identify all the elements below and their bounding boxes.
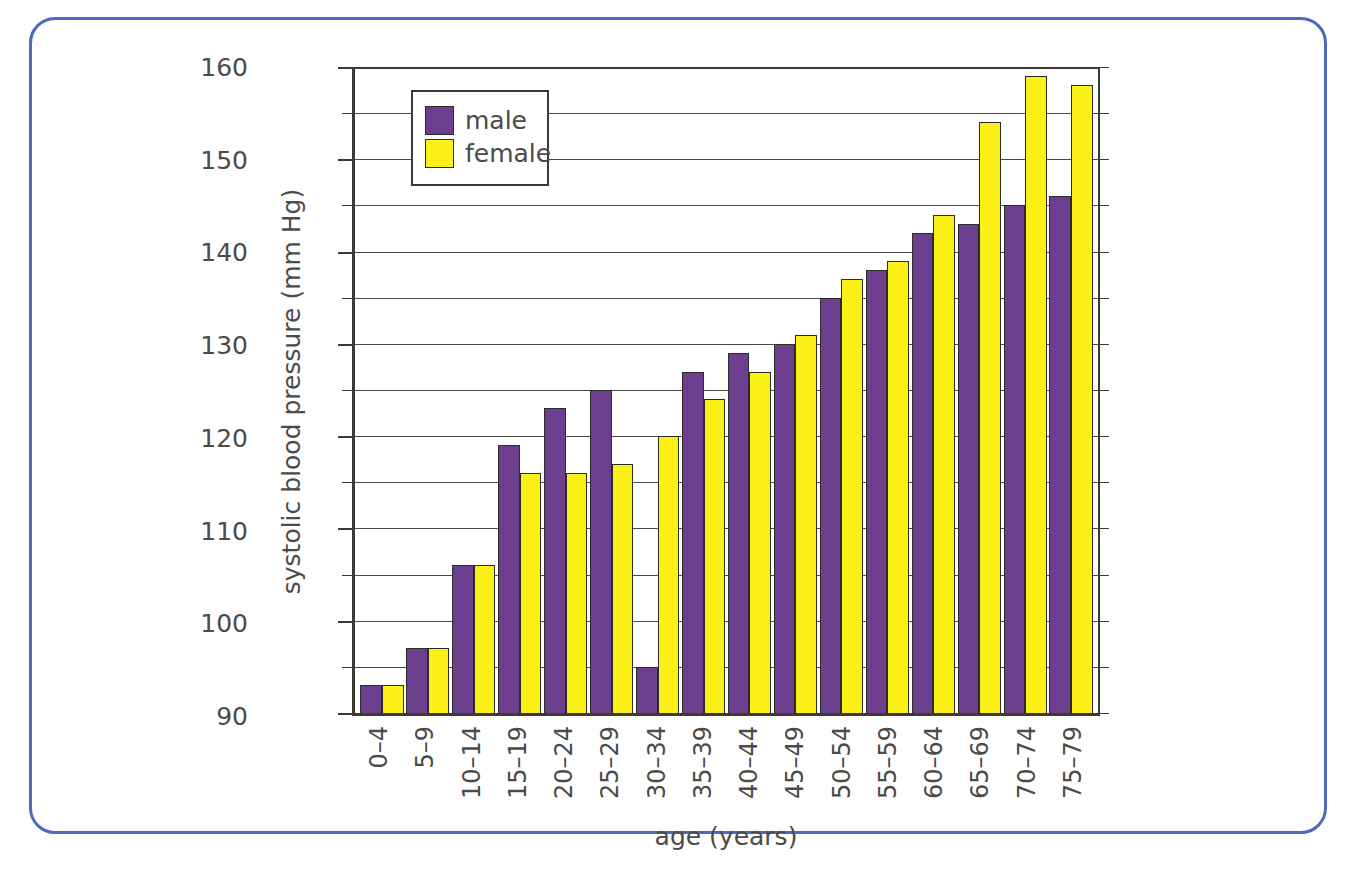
bar-female-45-49 (795, 335, 817, 713)
bar-female-40-44 (749, 372, 771, 713)
y-tick-right-155 (1099, 113, 1109, 114)
bar-group-40-44 (727, 67, 773, 713)
y-tick-90 (338, 713, 353, 715)
legend-swatch-male (425, 106, 454, 135)
y-axis-label-140: 140 (128, 238, 248, 267)
bar-group-50-54 (818, 67, 864, 713)
bar-female-10-14 (474, 565, 496, 713)
x-axis-label-cell: 65–69 (957, 722, 1003, 812)
bar-male-25-29 (590, 390, 612, 713)
y-tick-right-110 (1099, 528, 1109, 529)
chart-legend: malefemale (411, 90, 549, 186)
bar-male-60-64 (912, 233, 934, 713)
x-axis-label-75-79: 75–79 (1059, 726, 1087, 799)
bar-female-35-39 (704, 399, 726, 713)
x-axis-label-20-24: 20–24 (550, 726, 578, 799)
y-tick-105 (342, 575, 353, 576)
x-axis-label-cell: 45–49 (772, 722, 818, 812)
y-tick-120 (338, 436, 353, 438)
y-tick-155 (342, 113, 353, 114)
y-axis-title: systolic blood pressure (mm Hg) (277, 67, 306, 716)
y-tick-right-150 (1099, 159, 1109, 160)
bar-female-15-19 (520, 473, 542, 713)
bar-group-30-34 (635, 67, 681, 713)
bar-group-45-49 (772, 67, 818, 713)
bar-male-35-39 (682, 372, 704, 713)
y-tick-135 (342, 298, 353, 299)
y-axis-label-90: 90 (128, 702, 248, 731)
y-axis-label-150: 150 (128, 145, 248, 174)
bar-male-65-69 (958, 224, 980, 713)
y-tick-100 (338, 621, 353, 623)
bar-male-20-24 (544, 408, 566, 713)
x-axis-label-50-54: 50–54 (828, 726, 856, 799)
x-axis-label-cell: 75–79 (1050, 722, 1096, 812)
y-tick-right-135 (1099, 298, 1109, 299)
legend-entry-female: female (425, 139, 535, 168)
y-axis-label-130: 130 (128, 331, 248, 360)
y-tick-160 (338, 67, 353, 69)
y-tick-right-145 (1099, 205, 1109, 206)
x-axis-label-10-14: 10–14 (458, 726, 486, 799)
y-tick-145 (342, 205, 353, 206)
x-axis-title: age (years) (352, 822, 1100, 851)
y-tick-140 (338, 252, 353, 254)
bar-female-0-4 (382, 685, 404, 713)
bar-female-70-74 (1025, 76, 1047, 713)
x-axis-label-cell: 40–44 (726, 722, 772, 812)
x-axis-label-cell: 15–19 (495, 722, 541, 812)
bar-male-0-4 (360, 685, 382, 713)
x-axis-label-cell: 20–24 (541, 722, 587, 812)
y-tick-right-115 (1099, 482, 1109, 483)
bar-female-60-64 (933, 215, 955, 713)
y-tick-right-100 (1099, 621, 1109, 622)
y-axis-label-160: 160 (128, 53, 248, 82)
bar-female-5-9 (428, 648, 450, 713)
x-axis-label-5-9: 5–9 (411, 726, 439, 769)
bar-female-65-69 (979, 122, 1001, 713)
bar-male-70-74 (1004, 205, 1026, 713)
bar-group-25-29 (589, 67, 635, 713)
x-axis-label-70-74: 70–74 (1013, 726, 1041, 799)
x-axis-label-cell: 25–29 (587, 722, 633, 812)
bar-group-65-69 (956, 67, 1002, 713)
x-axis-label-0-4: 0–4 (365, 726, 393, 769)
x-axis-label-55-59: 55–59 (874, 726, 902, 799)
x-axis-label-cell: 55–59 (865, 722, 911, 812)
bar-group-0-4 (359, 67, 405, 713)
bar-female-55-59 (887, 261, 909, 713)
x-axis-label-cell: 70–74 (1004, 722, 1050, 812)
x-axis-label-cell: 50–54 (819, 722, 865, 812)
y-tick-95 (342, 667, 353, 668)
bar-group-35-39 (681, 67, 727, 713)
x-axis-label-30-34: 30–34 (643, 726, 671, 799)
y-tick-right-95 (1099, 667, 1109, 668)
x-axis-label-45-49: 45–49 (781, 726, 809, 799)
x-axis-label-cell: 30–34 (634, 722, 680, 812)
bar-male-55-59 (866, 270, 888, 713)
bar-group-60-64 (910, 67, 956, 713)
bar-female-75-79 (1071, 85, 1093, 713)
y-tick-right-130 (1099, 344, 1109, 345)
legend-swatch-female (425, 139, 454, 168)
bar-group-70-74 (1002, 67, 1048, 713)
bar-female-50-54 (841, 279, 863, 713)
bar-male-50-54 (820, 298, 842, 713)
x-axis-label-cell: 0–4 (356, 722, 402, 812)
y-tick-125 (342, 390, 353, 391)
x-axis-labels: 0–45–910–1415–1920–2425–2930–3435–3940–4… (352, 722, 1100, 812)
y-axis-label-120: 120 (128, 423, 248, 452)
legend-entry-male: male (425, 106, 535, 135)
bar-male-30-34 (636, 667, 658, 713)
bar-female-30-34 (658, 436, 680, 713)
x-axis-label-35-39: 35–39 (689, 726, 717, 799)
y-tick-right-125 (1099, 390, 1109, 391)
bar-group-55-59 (864, 67, 910, 713)
y-tick-right-160 (1099, 67, 1109, 68)
x-axis-label-15-19: 15–19 (504, 726, 532, 799)
x-axis-label-60-64: 60–64 (920, 726, 948, 799)
x-axis-label-cell: 5–9 (402, 722, 448, 812)
systolic-blood-pressure-bar-chart: systolic blood pressure (mm Hg) 16015014… (0, 0, 1356, 870)
y-tick-110 (338, 528, 353, 530)
bar-male-45-49 (774, 344, 796, 713)
